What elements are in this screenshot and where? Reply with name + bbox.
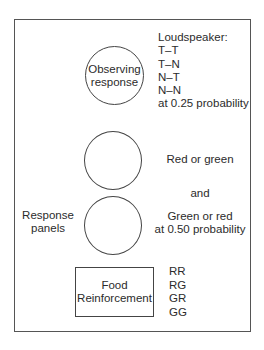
- panel-probability: at 0.50 probability: [155, 223, 246, 236]
- food-label-line-2: Reinforcement: [77, 292, 152, 305]
- response-panels-label: Response panels: [22, 209, 74, 236]
- response-panels-label-line-2: panels: [22, 222, 74, 235]
- combination-item: GR: [169, 292, 187, 306]
- combination-item: GG: [169, 306, 187, 320]
- response-panel-circle-bottom: [84, 196, 142, 255]
- loudspeaker-block: Loudspeaker: T–T T–N N–T N–N at 0.25 pro…: [158, 31, 249, 111]
- response-panels-label-line-1: Response: [22, 209, 74, 222]
- loudspeaker-probability: at 0.25 probability: [158, 97, 249, 110]
- food-label-line-1: Food: [101, 279, 127, 292]
- loudspeaker-option: N–T: [158, 71, 249, 84]
- food-reinforcement-box: Food Reinforcement: [75, 267, 154, 317]
- response-panel-circle-top: [84, 131, 142, 190]
- panel2-color-text: Green or red: [155, 210, 246, 223]
- observing-label-line-2: response: [91, 76, 138, 89]
- loudspeaker-option: N–N: [158, 84, 249, 97]
- combination-item: RR: [169, 265, 187, 279]
- panel1-color-text: Red or green: [166, 153, 233, 166]
- and-connector: and: [190, 187, 209, 200]
- observing-label-line-1: Observing: [88, 63, 140, 76]
- loudspeaker-option: T–N: [158, 58, 249, 71]
- panel2-color-block: Green or red at 0.50 probability: [155, 210, 246, 237]
- combination-item: RG: [169, 279, 187, 293]
- loudspeaker-option: T–T: [158, 44, 249, 57]
- loudspeaker-heading: Loudspeaker:: [158, 31, 249, 44]
- reinforcement-combinations: RR RG GR GG: [169, 265, 187, 319]
- observing-response-circle: Observing response: [85, 46, 144, 105]
